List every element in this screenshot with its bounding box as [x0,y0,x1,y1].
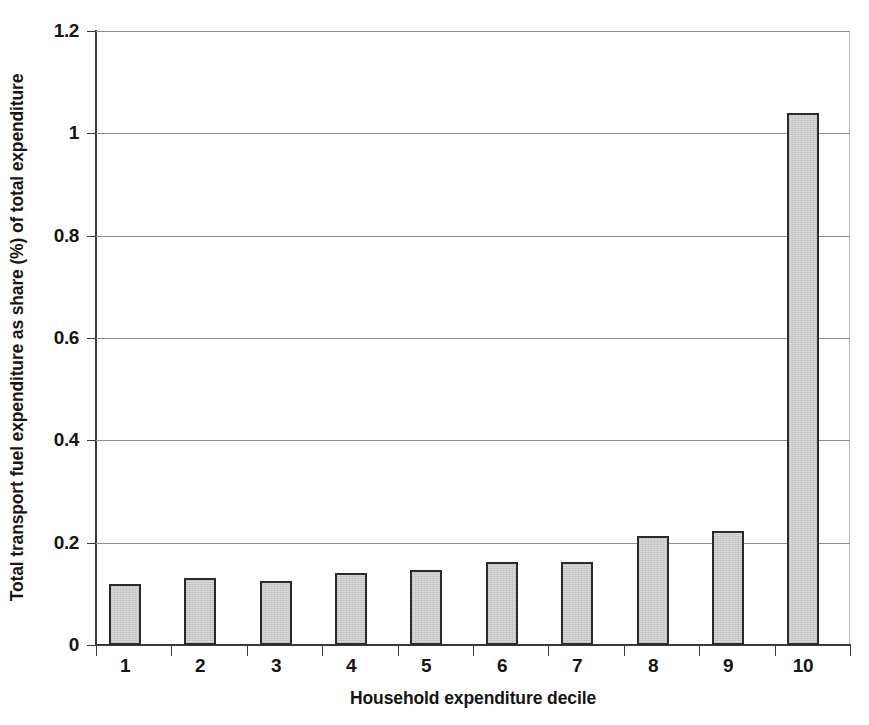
bar [787,113,819,645]
x-tick-label: 2 [160,655,240,677]
y-tick-mark [87,31,96,32]
x-tick-label: 4 [311,655,391,677]
x-tick-label: 3 [236,655,316,677]
bar [109,584,141,645]
y-tick-label: 1 [0,122,79,144]
x-tick-label: 5 [386,655,466,677]
gridline [96,133,850,134]
y-tick-label: 0.6 [0,327,79,349]
x-tick-mark [850,646,851,656]
y-tick-mark [87,338,96,339]
x-tick-label: 1 [85,655,165,677]
y-tick-mark [87,133,96,134]
x-tick-label: 10 [763,655,843,677]
x-tick-label: 8 [613,655,693,677]
bar [486,562,518,645]
bar [184,578,216,645]
y-tick-label: 0.4 [0,429,79,451]
gridline [96,31,850,32]
y-tick-label: 1.2 [0,20,79,42]
bar [561,562,593,645]
y-tick-mark [87,645,96,646]
x-tick-label: 6 [462,655,542,677]
y-tick-mark [87,236,96,237]
y-tick-mark [87,543,96,544]
gridline [96,236,850,237]
bar [410,570,442,645]
x-axis-title: Household expenditure decile [96,688,850,709]
gridline [96,440,850,441]
x-tick-label: 7 [537,655,617,677]
bar [712,531,744,645]
bar-chart: Total transport fuel expenditure as shar… [0,0,869,725]
y-tick-mark [87,440,96,441]
y-tick-label: 0.2 [0,532,79,554]
y-tick-label: 0 [0,634,79,656]
gridline [96,338,850,339]
y-tick-label: 0.8 [0,225,79,247]
x-tick-label: 9 [688,655,768,677]
bar [335,573,367,645]
bar [637,536,669,645]
bar [260,581,292,645]
y-axis-title: Total transport fuel expenditure as shar… [0,0,34,725]
